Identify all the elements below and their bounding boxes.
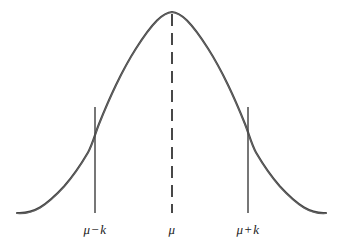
label-mu-plus-k-symbol: μ — [237, 222, 244, 237]
label-mu-minus-k-symbol: μ — [84, 222, 91, 237]
label-mu-plus-k: μ+k — [237, 222, 260, 238]
label-mu-symbol: μ — [169, 222, 176, 237]
label-mu-minus-k: μ−k — [84, 222, 107, 238]
label-mu: μ — [169, 222, 176, 238]
label-mu-minus-k-term: k — [100, 222, 106, 237]
label-mu-minus-k-operator: − — [91, 222, 101, 237]
label-mu-plus-k-operator: + — [244, 222, 254, 237]
label-mu-plus-k-term: k — [253, 222, 259, 237]
bell-curve-canvas — [0, 0, 346, 247]
bell-curve-figure: μ−k μ μ+k — [0, 0, 346, 247]
